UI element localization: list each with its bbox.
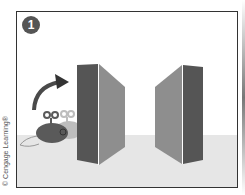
figure-frame: 1 xyxy=(16,11,238,188)
scene-illustration xyxy=(17,12,238,188)
curved-arrow-icon xyxy=(34,74,69,110)
left-panel xyxy=(77,64,125,165)
right-panel xyxy=(155,65,203,164)
wind-up-mouse-dark xyxy=(20,112,68,146)
copyright-notice: © Cengage Learning® xyxy=(2,116,9,186)
page-edge xyxy=(242,0,245,195)
